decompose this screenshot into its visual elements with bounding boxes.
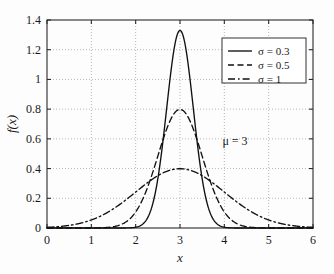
legend-label-1: σ = 0.5 — [258, 59, 290, 71]
y-tick-label: 1.2 — [26, 43, 41, 57]
x-tick-label: 0 — [44, 233, 50, 247]
x-axis-title: x — [176, 250, 183, 265]
x-tick-label: 2 — [133, 233, 139, 247]
legend: σ = 0.3σ = 0.5σ = 1 — [222, 38, 306, 85]
y-tick-label-layer: 00.20.40.60.811.21.4 — [26, 13, 41, 235]
legend-label-2: σ = 1 — [258, 73, 281, 85]
x-tick-label: 3 — [177, 233, 183, 247]
y-tick-label: 1.4 — [26, 13, 41, 27]
x-tick-label: 6 — [310, 233, 316, 247]
x-tick-label: 5 — [266, 233, 272, 247]
figure-container: 0123456 00.20.40.60.811.21.4 x f(x) μ = … — [0, 0, 334, 274]
y-tick-label: 0.4 — [26, 162, 41, 176]
x-tick-label: 1 — [88, 233, 94, 247]
y-tick-label: 0.8 — [26, 102, 41, 116]
mu-annotation: μ = 3 — [222, 134, 247, 148]
x-tick-label-layer: 0123456 — [44, 233, 316, 247]
y-tick-label: 0.6 — [26, 132, 41, 146]
x-tick-label: 4 — [221, 233, 227, 247]
y-tick-label: 1 — [35, 72, 41, 86]
y-tick-label: 0 — [35, 221, 41, 235]
y-axis-title: f(x) — [4, 115, 19, 133]
legend-label-0: σ = 0.3 — [258, 45, 290, 57]
y-tick-label: 0.2 — [26, 191, 41, 205]
chart-canvas: 0123456 00.20.40.60.811.21.4 x f(x) μ = … — [0, 0, 334, 274]
